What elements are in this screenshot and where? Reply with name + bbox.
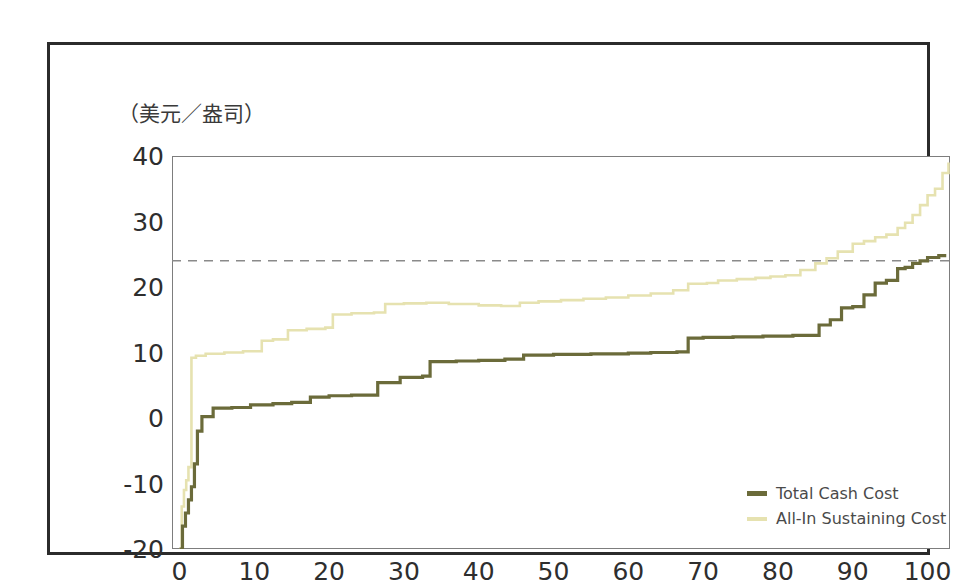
x-axis-tick-10: 100 (904, 557, 952, 586)
y-axis-unit-label: （美元／盎司） (118, 97, 265, 127)
x-axis-tick-labels: 0102030405060708090100 (172, 557, 950, 586)
y-axis-tick-3: 10 (104, 338, 164, 367)
x-axis-tick-9: 90 (837, 557, 869, 586)
y-axis-tick-5: 30 (104, 207, 164, 236)
x-axis-tick-5: 50 (538, 557, 570, 586)
legend-item-0[interactable]: Total Cash Cost (747, 481, 957, 506)
x-axis-tick-4: 40 (463, 557, 495, 586)
y-axis-tick-2: 0 (104, 404, 164, 433)
x-axis-tick-3: 30 (388, 557, 420, 586)
legend-swatch-icon (747, 491, 767, 496)
y-axis-tick-0: -20 (104, 535, 164, 564)
x-axis-tick-6: 60 (612, 557, 644, 586)
x-axis-tick-8: 80 (762, 557, 794, 586)
y-axis-tick-1: -10 (104, 469, 164, 498)
x-axis-tick-7: 70 (687, 557, 719, 586)
legend-swatch-icon (747, 517, 767, 521)
legend-item-1[interactable]: All-In Sustaining Cost (747, 506, 957, 531)
y-axis-tick-4: 20 (104, 273, 164, 302)
y-axis-tick-6: 40 (104, 142, 164, 171)
x-axis-tick-0: 0 (172, 557, 188, 586)
legend-label: Total Cash Cost (776, 484, 899, 503)
x-axis-tick-1: 10 (238, 557, 270, 586)
x-axis-tick-2: 20 (313, 557, 345, 586)
figure-page: （美元／盎司） -20-10010203040 0102030405060708… (0, 0, 970, 586)
chart-legend: Total Cash CostAll-In Sustaining Cost (747, 481, 957, 531)
figure-frame: （美元／盎司） -20-10010203040 0102030405060708… (47, 42, 930, 555)
legend-label: All-In Sustaining Cost (776, 509, 946, 528)
y-axis-tick-labels: -20-10010203040 (96, 156, 164, 549)
